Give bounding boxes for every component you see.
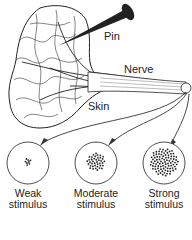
moderate-stimulus-caption: Moderate stimulus (66, 188, 126, 210)
skin-label: Skin (88, 101, 109, 112)
weak-stimulus-caption: Weak stimulus (0, 188, 58, 210)
nerve-cut-end (181, 83, 191, 93)
caption-line: stimulus (66, 199, 126, 210)
weak-stimulus-circle (7, 142, 49, 184)
pin-label: Pin (104, 31, 120, 42)
moderate-stimulus-circle (75, 142, 117, 184)
caption-line: stimulus (0, 199, 58, 210)
caption-line: stimulus (134, 199, 192, 210)
strong-stimulus-circle (143, 142, 185, 184)
strong-stimulus-caption: Strong stimulus (134, 188, 192, 210)
nerve-label: Nerve (124, 64, 153, 75)
